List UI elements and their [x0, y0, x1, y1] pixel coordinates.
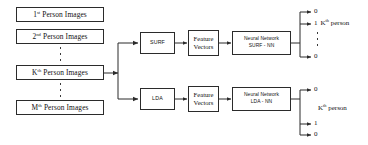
lda-extractor-label: LDA: [152, 96, 163, 102]
surf-extractor-label: SURF: [150, 40, 165, 46]
lda-nn-line1: Neural Network: [244, 92, 279, 99]
lda-output-1: 1: [314, 119, 318, 127]
input-box-person-1[interactable]: 1st Person Images: [16, 7, 104, 22]
surf-nn-line2: SURF - NN: [249, 43, 275, 50]
input-label-person-1: 1st Person Images: [33, 11, 87, 19]
lda-feature-vectors-line2: Vectors: [194, 99, 214, 107]
input-label-person-2: 2nd Person Images: [32, 33, 87, 41]
surf-neural-network-box[interactable]: Neural Network SURF - NN: [232, 31, 291, 55]
surf-feature-vectors-line1: Feature: [194, 35, 214, 43]
surf-output-0-top: 0: [314, 7, 318, 15]
surf-output-ellipsis: [316, 32, 318, 46]
surf-nn-line1: Neural Network: [244, 36, 279, 43]
surf-output-0-bottom: 0: [314, 52, 318, 60]
lda-feature-vectors-line1: Feature: [194, 91, 214, 99]
lda-output-0-bottom: 0: [314, 130, 318, 138]
surf-output-person-note: Kth person: [321, 19, 350, 27]
surf-feature-vectors-box[interactable]: Feature Vectors: [188, 30, 219, 56]
lda-output-person-note: Kth person: [318, 104, 347, 112]
lda-neural-network-box[interactable]: Neural Network LDA - NN: [232, 87, 291, 111]
surf-feature-vectors-line2: Vectors: [194, 43, 214, 51]
block-diagram: 1st Person Images 2nd Person Images Kth …: [0, 0, 368, 145]
input-box-person-2[interactable]: 2nd Person Images: [16, 29, 104, 44]
lda-nn-line2: LDA - NN: [251, 99, 272, 106]
lda-feature-vectors-box[interactable]: Feature Vectors: [188, 86, 219, 112]
lda-extractor-box[interactable]: LDA: [140, 88, 175, 110]
vertical-ellipsis-lower: [59, 83, 61, 97]
input-label-person-m: Mth Person Images: [32, 104, 89, 112]
input-box-person-m[interactable]: Mth Person Images: [16, 100, 104, 115]
vertical-ellipsis-upper: [59, 47, 61, 61]
surf-output-1: 1Kth person: [314, 19, 349, 27]
surf-extractor-box[interactable]: SURF: [140, 32, 175, 54]
lda-output-0-top: 0: [314, 85, 318, 93]
input-label-person-k: Kth Person Images: [32, 69, 88, 77]
input-box-person-k[interactable]: Kth Person Images: [16, 65, 104, 80]
